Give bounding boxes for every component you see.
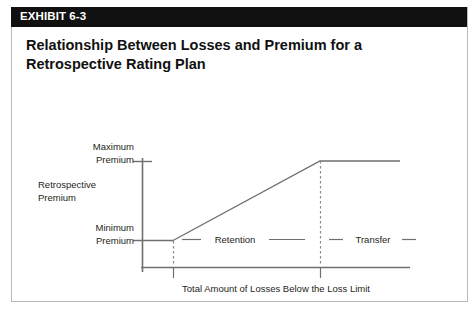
- x-axis-caption: Total Amount of Losses Below the Loss Li…: [141, 283, 411, 294]
- label-retention: Retention: [205, 234, 265, 245]
- label-minimum-premium-line-2: Premium: [52, 235, 134, 248]
- label-maximum-premium-line-1: Maximum: [52, 141, 134, 154]
- exhibit-title-line-1: Relationship Between Losses and Premium …: [26, 36, 426, 55]
- exhibit-title-line-2: Retrospective Rating Plan: [26, 55, 426, 74]
- exhibit-title: Relationship Between Losses and Premium …: [26, 36, 426, 74]
- label-maximum-premium-line-2: Premium: [52, 154, 134, 167]
- exhibit-header-bar: EXHIBIT 6-3: [11, 7, 467, 27]
- label-maximum-premium: Maximum Premium: [52, 141, 134, 166]
- label-retrospective-premium-line-2: Premium: [38, 192, 134, 205]
- label-minimum-premium: Minimum Premium: [52, 222, 134, 247]
- label-transfer: Transfer: [345, 234, 401, 245]
- label-retrospective-premium: Retrospective Premium: [38, 179, 134, 204]
- exhibit-number-label: EXHIBIT 6-3: [20, 10, 86, 22]
- label-minimum-premium-line-1: Minimum: [52, 222, 134, 235]
- label-retrospective-premium-line-1: Retrospective: [38, 179, 134, 192]
- exhibit-figure: EXHIBIT 6-3 Relationship Between Losses …: [0, 0, 475, 317]
